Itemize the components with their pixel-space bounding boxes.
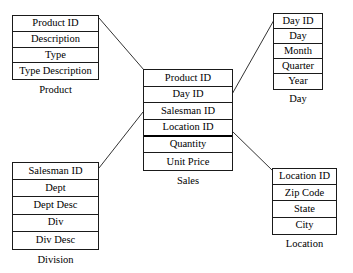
field-row[interactable]: Location ID (273, 169, 336, 185)
field-row[interactable]: City (273, 218, 336, 234)
field-row[interactable]: Product ID (13, 16, 98, 32)
field-row[interactable]: Div Desc (13, 232, 98, 249)
field-row[interactable]: Salesman ID (13, 163, 98, 180)
star-schema-diagram: Product ID Description Type Type Descrip… (0, 0, 353, 273)
field-row[interactable]: Unit Price (144, 153, 232, 170)
field-row[interactable]: Day ID (274, 14, 322, 29)
entity-product-caption: Product (12, 85, 99, 96)
entity-day-box: Day ID Day Month Quarter Year (273, 13, 323, 90)
field-row[interactable]: Div (13, 215, 98, 232)
field-row[interactable]: Type Description (13, 63, 98, 79)
field-row[interactable]: Zip Code (273, 185, 336, 201)
field-row[interactable]: Salesman ID (144, 103, 232, 120)
entity-sales[interactable]: Product ID Day ID Salesman ID Location I… (143, 69, 233, 187)
field-row[interactable]: Day ID (144, 87, 232, 104)
entity-sales-box: Product ID Day ID Salesman ID Location I… (143, 69, 233, 171)
field-row[interactable]: Quarter (274, 59, 322, 74)
entity-product-box: Product ID Description Type Type Descrip… (12, 15, 99, 80)
relationship-line-division-sales (99, 112, 143, 168)
entity-location-box: Location ID Zip Code State City (272, 168, 337, 235)
relationship-line-sales-day (231, 20, 274, 96)
field-row[interactable]: Type (13, 48, 98, 64)
entity-division-caption: Division (12, 255, 99, 266)
entity-day[interactable]: Day ID Day Month Quarter Year Day (273, 13, 323, 105)
field-row[interactable]: Dept (13, 180, 98, 197)
entity-division-box: Salesman ID Dept Dept Desc Div Div Desc (12, 162, 99, 250)
entity-sales-caption: Sales (143, 176, 233, 187)
entity-division[interactable]: Salesman ID Dept Dept Desc Div Div Desc … (12, 162, 99, 265)
field-row[interactable]: Day (274, 29, 322, 44)
field-row[interactable]: Product ID (144, 70, 232, 87)
entity-location-caption: Location (272, 239, 337, 250)
field-row[interactable]: Dept Desc (13, 197, 98, 214)
field-row[interactable]: State (273, 201, 336, 217)
relationship-line-product-sales (99, 18, 144, 70)
field-row[interactable]: Location ID (144, 120, 232, 137)
field-row[interactable]: Year (274, 74, 322, 89)
field-row[interactable]: Month (274, 44, 322, 59)
field-row[interactable]: Description (13, 32, 98, 48)
entity-day-caption: Day (273, 94, 323, 105)
entity-product[interactable]: Product ID Description Type Type Descrip… (12, 15, 99, 96)
field-row[interactable]: Quantity (144, 137, 232, 154)
relationship-line-sales-location (232, 131, 273, 171)
entity-location[interactable]: Location ID Zip Code State City Location (272, 168, 337, 249)
